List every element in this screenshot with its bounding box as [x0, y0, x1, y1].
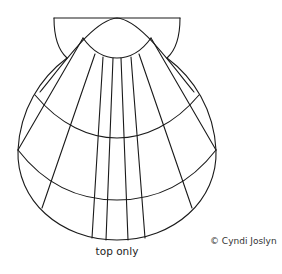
shell-outline: [18, 58, 216, 240]
umbo-arch: [40, 18, 194, 92]
shell-ray: [139, 54, 192, 208]
scallop-shell-diagram: [0, 0, 282, 274]
inner-umbo-arc: [83, 38, 151, 58]
left-ear-outline: [54, 18, 67, 58]
shell-ray: [42, 54, 95, 208]
shell-ray: [92, 57, 103, 238]
shell-ray: [121, 58, 128, 240]
growth-arc-1: [35, 95, 199, 138]
shell-ray: [106, 58, 113, 240]
right-ear-outline: [167, 18, 180, 58]
shell-ray: [151, 38, 216, 150]
caption-top-only: top only: [87, 245, 147, 257]
shell-ray: [131, 57, 145, 238]
copyright-notice: © Cyndi Joslyn: [210, 236, 277, 246]
shell-ray: [18, 38, 83, 150]
